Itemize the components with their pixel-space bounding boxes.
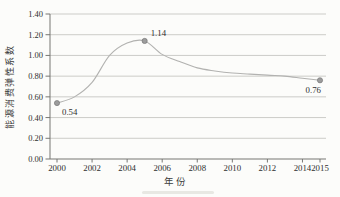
data-point-marker [317,78,322,83]
svg-text:0.80: 0.80 [28,71,43,81]
line-chart-canvas: 0.000.200.400.600.801.001.201.4020002002… [0,0,340,197]
svg-text:2010: 2010 [224,163,242,173]
x-tick-labels: 200020022004200620082010201220142015 [48,163,329,173]
scan-artifact [142,191,214,194]
svg-text:1.40: 1.40 [28,9,43,19]
data-point-markers [54,38,322,105]
svg-text:2015: 2015 [311,163,329,173]
chart-figure: 能源消费弹性系数 0.000.200.400.600.801.001.201.4… [0,0,340,197]
y-tick-labels: 0.000.200.400.600.801.001.201.40 [28,9,43,164]
svg-text:2014: 2014 [294,163,312,173]
svg-text:0.40: 0.40 [28,113,43,123]
svg-text:2008: 2008 [188,163,206,173]
data-point-marker [142,38,147,43]
data-series-line [57,40,320,103]
x-axis-title: 年份 [136,174,216,188]
data-point-marker [54,100,59,105]
axes [50,14,326,159]
svg-text:0.00: 0.00 [28,154,43,164]
svg-text:2006: 2006 [153,163,171,173]
data-point-labels: 0.541.140.76 [62,28,322,117]
svg-text:1.00: 1.00 [28,50,43,60]
data-point-value-label: 0.54 [62,107,78,117]
svg-text:2004: 2004 [118,163,136,173]
svg-text:2002: 2002 [83,163,101,173]
svg-text:2012: 2012 [259,163,277,173]
svg-text:2000: 2000 [48,163,66,173]
data-point-value-label: 0.76 [306,85,322,95]
data-point-value-label: 1.14 [151,28,167,38]
svg-text:1.20: 1.20 [28,30,43,40]
svg-text:0.20: 0.20 [28,133,43,143]
svg-text:0.60: 0.60 [28,92,43,102]
